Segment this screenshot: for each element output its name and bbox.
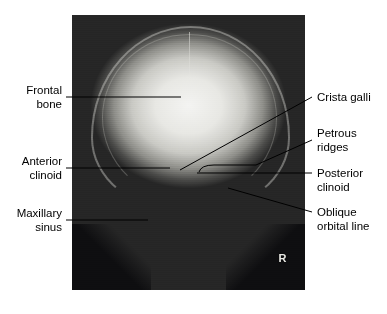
label-crista-galli-line1: Crista galli (317, 91, 371, 105)
figure-annotated-skull-radiograph: R Frontal bone Anterior clinoid Maxill (0, 0, 387, 314)
label-maxillary-sinus-line1: Maxillary (0, 207, 62, 221)
leader-oblique-orbital-line (228, 188, 312, 212)
label-oblique-orbital-line-line1: Oblique (317, 206, 369, 220)
leader-crista-galli (180, 97, 312, 170)
label-anterior-clinoid-line1: Anterior (0, 155, 62, 169)
leader-petrous-ridges (199, 140, 312, 172)
label-petrous-ridges-line1: Petrous (317, 127, 357, 141)
label-anterior-clinoid: Anterior clinoid (0, 155, 62, 182)
label-petrous-ridges-line2: ridges (317, 141, 357, 155)
label-frontal-bone-line1: Frontal (0, 84, 62, 98)
label-posterior-clinoid-line2: clinoid (317, 181, 363, 195)
label-posterior-clinoid: Posterior clinoid (317, 167, 363, 194)
label-petrous-ridges: Petrous ridges (317, 127, 357, 154)
label-oblique-orbital-line: Oblique orbital line (317, 206, 369, 233)
label-oblique-orbital-line-line2: orbital line (317, 220, 369, 234)
label-posterior-clinoid-line1: Posterior (317, 167, 363, 181)
label-maxillary-sinus: Maxillary sinus (0, 207, 62, 234)
label-frontal-bone: Frontal bone (0, 84, 62, 111)
label-crista-galli: Crista galli (317, 91, 371, 105)
label-anterior-clinoid-line2: clinoid (0, 169, 62, 183)
label-maxillary-sinus-line2: sinus (0, 221, 62, 235)
label-frontal-bone-line2: bone (0, 98, 62, 112)
figure-caption (0, 306, 387, 314)
